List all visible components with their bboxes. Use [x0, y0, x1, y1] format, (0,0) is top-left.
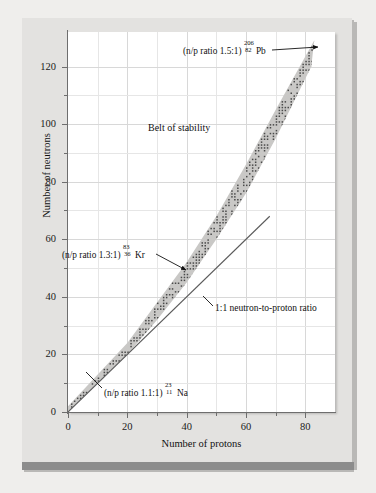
x-tick-label: 60: [228, 421, 264, 432]
krypton-isotope-notation: 83 36: [123, 248, 135, 258]
one-to-one-ratio-label: 1:1 neutron-to-proton ratio: [215, 303, 317, 313]
belt-of-stability-band: [68, 41, 314, 412]
krypton-83-annotation: (n/p ratio 1.3:1) 83 36 Kr: [62, 248, 145, 260]
sodium-symbol: Na: [177, 388, 188, 398]
y-tick: [62, 297, 68, 298]
x-axis: [67, 412, 336, 413]
y-tick-minor: [64, 153, 68, 154]
krypton-symbol: Kr: [135, 250, 145, 260]
y-tick: [62, 354, 68, 355]
lead-206-annotation: (n/p ratio 1.5:1) 206 82 Pb: [183, 44, 266, 56]
x-tick: [127, 412, 128, 418]
panel-right-shadow: [352, 22, 357, 470]
x-tick: [305, 412, 306, 418]
y-tick-minor: [64, 95, 68, 96]
x-tick-label: 80: [287, 421, 323, 432]
x-tick-minor: [157, 412, 158, 416]
x-tick: [187, 412, 188, 418]
figure-page: 020406080100120020406080 Number of neutr…: [0, 0, 376, 493]
x-tick-minor: [276, 412, 277, 416]
y-tick-label: 120: [26, 61, 56, 72]
sodium-atomic-number: 11: [166, 388, 172, 395]
x-tick: [68, 412, 69, 418]
nuclide-dots: [71, 41, 316, 408]
x-axis-title: Number of protons: [68, 438, 335, 449]
y-tick-minor: [64, 268, 68, 269]
panel-bottom-bar: [22, 462, 354, 470]
krypton-atomic-number: 36: [124, 250, 131, 257]
y-tick-minor: [64, 383, 68, 384]
x-tick-label: 40: [169, 421, 205, 432]
plot-graphics: [68, 32, 335, 412]
y-tick-minor: [64, 210, 68, 211]
y-tick: [62, 182, 68, 183]
sodium-isotope-notation: 23 11: [165, 386, 177, 396]
lead-symbol: Pb: [256, 46, 266, 56]
y-tick-label: 20: [26, 348, 56, 359]
sodium-ratio-text: (n/p ratio 1.1:1): [104, 388, 163, 398]
x-tick-minor: [216, 412, 217, 416]
x-tick-label: 20: [109, 421, 145, 432]
lead-ratio-text: (n/p ratio 1.5:1): [183, 46, 242, 56]
y-tick: [62, 67, 68, 68]
krypton-ratio-text: (n/p ratio 1.3:1): [62, 250, 121, 260]
y-axis: [67, 30, 68, 414]
y-tick-minor: [64, 326, 68, 327]
sodium-23-annotation: (n/p ratio 1.1:1) 23 11 Na: [104, 386, 188, 398]
y-axis-title: Number of neutrons: [41, 106, 52, 246]
belt-of-stability-label: Belt of stability: [148, 122, 210, 133]
y-tick: [62, 124, 68, 125]
y-tick: [62, 239, 68, 240]
plot-inner: [68, 32, 335, 412]
x-tick-minor: [98, 412, 99, 416]
y-tick-label: 40: [26, 291, 56, 302]
x-tick-label: 0: [50, 421, 86, 432]
x-tick: [246, 412, 247, 418]
lead-atomic-number: 82: [245, 46, 252, 53]
y-tick-label: 0: [26, 406, 56, 417]
plot-area: [68, 32, 335, 412]
lead-isotope-notation: 206 82: [244, 44, 256, 54]
